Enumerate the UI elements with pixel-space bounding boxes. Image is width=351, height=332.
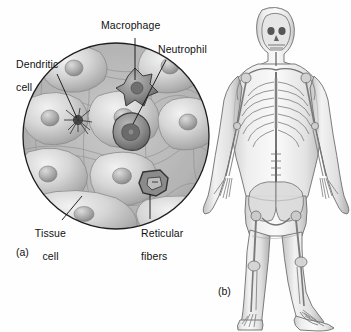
panel-a-caption: (a) bbox=[16, 246, 29, 258]
label-tissue-cell-line1: Tissue bbox=[35, 227, 66, 239]
label-tissue-cell: Tissue cell bbox=[29, 216, 66, 262]
label-macrophage: Macrophage bbox=[101, 20, 160, 32]
skeleton bbox=[214, 13, 338, 327]
reticular-fibers-structure bbox=[139, 170, 168, 196]
neutrophil-cell bbox=[113, 113, 150, 151]
label-tissue-cell-line2: cell bbox=[42, 250, 58, 262]
skull-icon bbox=[262, 13, 291, 50]
panel-b-human-figure bbox=[203, 7, 349, 331]
label-reticular-fibers-line2: fibers bbox=[141, 250, 167, 262]
panel-b-caption: (b) bbox=[218, 285, 231, 297]
label-dendritic-cell-line1: Dendritic bbox=[16, 58, 58, 70]
label-reticular-fibers-line1: Reticular bbox=[141, 227, 183, 239]
label-dendritic-cell-line2: cell bbox=[16, 81, 32, 93]
label-reticular-fibers: Reticular fibers bbox=[135, 216, 183, 262]
label-dendritic-cell: Dendritic cell bbox=[10, 47, 58, 93]
label-neutrophil: Neutrophil bbox=[158, 44, 207, 56]
